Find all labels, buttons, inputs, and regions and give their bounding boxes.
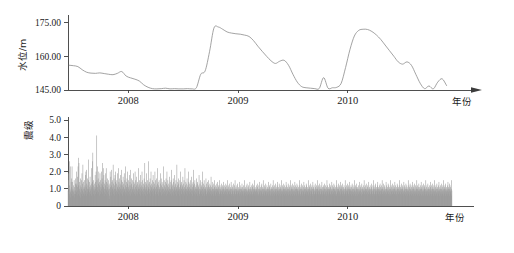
- water-level-yaxis-title: 水位/m: [17, 39, 28, 71]
- water-xtick-label: 2009: [228, 95, 249, 106]
- magnitude-bars: [68, 135, 452, 206]
- magnitude-xaxis-title: 年份: [445, 212, 465, 223]
- magnitude-xtick-label: 2008: [118, 211, 139, 222]
- water-xtick-label: 2008: [118, 95, 139, 106]
- water-ytick-label: 145.00: [35, 85, 61, 95]
- magnitude-yaxis-title: 震级: [23, 120, 34, 140]
- magnitude-xtick-label: 2009: [228, 211, 249, 222]
- magnitude-ytick-label: 5.0: [49, 115, 61, 125]
- magnitude-chart-panel: 01.02.03.04.05.0200820092010 年份 震级: [0, 108, 514, 253]
- water-level-chart-panel: 145.00160.00175.00200820092010 年份 水位/m: [0, 0, 514, 112]
- water-level-xaxis-title: 年份: [452, 96, 472, 107]
- water-level-line: [69, 26, 446, 89]
- water-xaxis-arrow: [471, 87, 482, 93]
- magnitude-ytick-label: 4.0: [49, 133, 61, 143]
- water-ytick-label: 160.00: [35, 52, 61, 62]
- magnitude-chart-svg: 01.02.03.04.05.0200820092010 年份 震级: [0, 108, 514, 253]
- magnitude-bar: [452, 191, 453, 206]
- magnitude-xtick-label: 2010: [337, 211, 358, 222]
- water-ytick-label: 175.00: [35, 18, 61, 28]
- magnitude-ytick-label: 0: [56, 201, 61, 211]
- water-level-chart-svg: 145.00160.00175.00200820092010 年份 水位/m: [0, 0, 514, 112]
- water-xtick-label: 2010: [337, 95, 358, 106]
- figure-container: 145.00160.00175.00200820092010 年份 水位/m 0…: [0, 0, 514, 253]
- magnitude-ytick-label: 1.0: [49, 184, 61, 194]
- magnitude-ytick-label: 2.0: [49, 167, 61, 177]
- magnitude-ytick-label: 3.0: [49, 150, 61, 160]
- water-level-tick-labels: 145.00160.00175.00200820092010: [35, 18, 358, 106]
